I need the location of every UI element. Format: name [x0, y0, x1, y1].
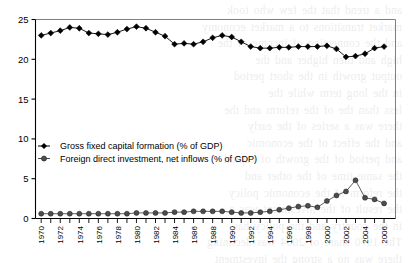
- data-point: [372, 197, 377, 202]
- x-tick-label: 1976: [95, 225, 104, 243]
- data-point: [220, 209, 225, 214]
- x-tick-label: 1998: [304, 225, 313, 243]
- line-chart: 0510152025197019721974197619781980198219…: [0, 0, 416, 263]
- data-point: [67, 211, 72, 216]
- data-point: [219, 33, 225, 39]
- data-point: [305, 44, 311, 50]
- y-tick-label: 10: [18, 133, 29, 144]
- data-point: [124, 26, 130, 32]
- x-tick-label: 1986: [190, 225, 199, 243]
- data-point: [143, 25, 149, 31]
- x-tick-label: 1988: [209, 225, 218, 243]
- data-point: [229, 210, 234, 215]
- x-tick-label: 2006: [380, 225, 389, 243]
- data-point: [277, 207, 282, 212]
- y-tick-label: 25: [18, 14, 29, 25]
- x-tick-label: 1972: [56, 225, 65, 243]
- data-point: [38, 33, 44, 39]
- data-point: [191, 209, 196, 214]
- data-point: [353, 53, 359, 59]
- chart-legend: Gross fixed capital formation (% of GDP)…: [38, 141, 257, 164]
- data-point: [276, 44, 282, 50]
- data-point: [258, 210, 263, 215]
- data-point: [57, 28, 63, 34]
- data-point: [324, 198, 329, 203]
- y-tick-label: 0: [23, 213, 28, 224]
- data-point: [181, 40, 187, 46]
- data-point: [67, 25, 73, 31]
- data-point: [153, 210, 158, 215]
- series-line: [41, 27, 384, 57]
- data-point: [86, 211, 91, 216]
- data-point: [48, 211, 53, 216]
- data-point: [324, 43, 330, 49]
- data-point: [296, 204, 301, 209]
- data-point: [163, 210, 168, 215]
- data-point: [267, 209, 272, 214]
- data-point: [105, 32, 111, 38]
- chart-container: and a trend that the few who took market…: [0, 0, 416, 263]
- data-point: [343, 189, 348, 194]
- data-point: [115, 211, 120, 216]
- data-point: [143, 210, 148, 215]
- x-axis: 1970197219741976197819801982198419861988…: [36, 219, 396, 244]
- data-point: [76, 25, 82, 31]
- x-tick-label: 1992: [247, 225, 256, 243]
- data-point: [353, 178, 358, 183]
- data-point: [295, 44, 301, 50]
- x-tick-label: 2004: [361, 225, 370, 243]
- legend-marker-circle-icon: [41, 156, 46, 161]
- data-point: [315, 44, 321, 50]
- data-point: [191, 41, 197, 47]
- x-tick-label: 1970: [37, 225, 46, 243]
- data-point: [372, 45, 378, 51]
- data-point: [105, 211, 110, 216]
- data-point: [286, 44, 292, 50]
- data-point: [248, 44, 254, 50]
- data-point: [382, 201, 387, 206]
- data-point: [267, 45, 273, 51]
- data-point: [95, 31, 101, 37]
- data-point: [210, 35, 216, 41]
- data-point: [238, 39, 244, 45]
- legend-label: Gross fixed capital formation (% of GDP): [60, 141, 223, 151]
- data-point: [86, 30, 92, 36]
- data-point: [39, 211, 44, 216]
- x-tick-label: 1978: [114, 225, 123, 243]
- x-tick-label: 1990: [228, 225, 237, 243]
- data-point: [210, 209, 215, 214]
- legend-label: Foreign direct investment, net inflows (…: [60, 154, 257, 164]
- x-tick-label: 1994: [266, 225, 275, 243]
- data-point: [248, 210, 253, 215]
- data-point: [286, 206, 291, 211]
- data-series: [38, 24, 387, 60]
- data-point: [362, 51, 368, 57]
- data-point: [239, 210, 244, 215]
- x-tick-label: 2000: [323, 225, 332, 243]
- x-tick-label: 1980: [133, 225, 142, 243]
- data-point: [200, 39, 206, 45]
- data-point: [96, 211, 101, 216]
- data-point: [58, 211, 63, 216]
- plot-frame: [36, 20, 396, 219]
- data-point: [134, 210, 139, 215]
- data-point: [182, 210, 187, 215]
- data-point: [315, 205, 320, 210]
- data-point: [115, 29, 121, 35]
- data-point: [381, 44, 387, 50]
- x-tick-label: 1984: [171, 225, 180, 243]
- data-point: [305, 203, 310, 208]
- y-tick-label: 5: [23, 173, 28, 184]
- data-point: [134, 24, 140, 30]
- x-tick-label: 1982: [152, 225, 161, 243]
- data-point: [124, 211, 129, 216]
- x-tick-label: 1996: [285, 225, 294, 243]
- data-point: [334, 193, 339, 198]
- data-point: [77, 211, 82, 216]
- data-point: [48, 30, 54, 36]
- data-point: [201, 209, 206, 214]
- data-point: [172, 210, 177, 215]
- data-point: [229, 34, 235, 40]
- y-tick-label: 20: [18, 54, 29, 65]
- data-series: [39, 178, 387, 216]
